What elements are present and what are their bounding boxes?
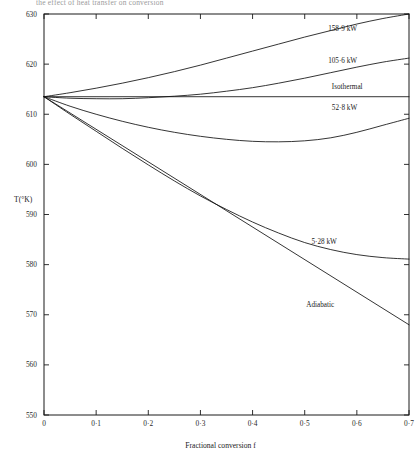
x-axis-tick-label: 0·3: [195, 419, 205, 428]
curve-5-28-kw: [44, 97, 409, 259]
y-axis-tick-label: 600: [26, 160, 37, 169]
x-axis-tick-label: 0·7: [404, 419, 414, 428]
y-axis-tick-label: 550: [26, 411, 37, 420]
y-axis-tick-label: 610: [26, 110, 37, 119]
x-axis-tick-label: 0·6: [352, 419, 362, 428]
y-axis-title: T(°K): [14, 195, 33, 204]
curve-label: 52·8 kW: [332, 104, 358, 112]
curve-label: 158·9 kW: [328, 25, 357, 33]
curve-label: 105·6 kW: [328, 57, 357, 65]
curve-label: Isothermal: [332, 83, 363, 91]
y-axis-tick-label: 620: [26, 60, 37, 69]
y-axis-tick-label: 630: [26, 10, 37, 19]
figure-page: the effect of heat transfer on conversio…: [0, 0, 418, 466]
y-axis-tick-label: 570: [26, 310, 37, 319]
y-axis-tick-label: 560: [26, 360, 37, 369]
x-axis-tick-label: 0: [42, 419, 46, 428]
x-axis-tick-label: 0·1: [91, 419, 101, 428]
y-axis-tick-label: 590: [26, 210, 37, 219]
curve-label: 5·28 kW: [311, 238, 337, 246]
x-axis-tick-label: 0·5: [300, 419, 310, 428]
plot-frame: [44, 14, 409, 415]
temperature-conversion-chart: 55056057058059060061062063000·10·20·30·4…: [0, 0, 418, 466]
curve-adiabatic: [44, 97, 409, 325]
x-axis-title: Fractional conversion f: [185, 441, 256, 450]
x-axis-tick-label: 0·4: [248, 419, 258, 428]
x-axis-tick-label: 0·2: [143, 419, 153, 428]
y-axis-tick-label: 580: [26, 260, 37, 269]
curve-label: Adiabatic: [306, 301, 334, 309]
